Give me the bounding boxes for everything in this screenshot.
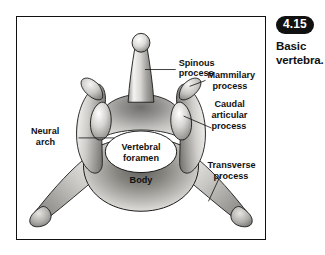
figure-caption-text: Basic vertebra. [276, 39, 325, 67]
label-transverse-process-line2: process [213, 171, 248, 181]
figure-panel: Spinous process Mammilary process Caudal… [16, 16, 266, 240]
figure-caption-line2: vertebra. [276, 53, 325, 67]
spinous-process-knob [132, 33, 150, 52]
figure-caption-line1: Basic [276, 39, 325, 53]
figure-page: Spinous process Mammilary process Caudal… [0, 0, 325, 255]
mammilary-process-left [81, 78, 103, 100]
label-spinous-process-line1: Spinous [179, 58, 215, 68]
vertebra-illustration: Spinous process Mammilary process Caudal… [17, 17, 265, 239]
label-caudal-articular-line3: process [211, 121, 246, 131]
label-transverse-process-line1: Transverse [207, 160, 255, 170]
label-body: Body [130, 176, 154, 186]
label-caudal-articular-line2: articular [211, 110, 247, 120]
label-neural-arch-line1: Neural [31, 126, 59, 136]
label-vertebral-foramen-line2: foramen [123, 153, 159, 163]
spinous-process-shaft [128, 47, 154, 102]
label-neural-arch-line2: arch [36, 137, 55, 147]
figure-number-badge: 4.15 [276, 16, 314, 34]
label-vertebral-foramen-line1: Vertebral [121, 142, 160, 152]
label-mammilary-process-line1: Mammilary [207, 70, 256, 80]
mammilary-process-right [179, 78, 201, 100]
transverse-process-left-tip [30, 207, 51, 227]
label-caudal-articular-line1: Caudal [214, 99, 244, 109]
label-mammilary-process-line2: process [212, 81, 247, 91]
figure-caption-block: 4.15 Basic vertebra. [276, 14, 325, 67]
transverse-process-right-tip [231, 207, 252, 227]
